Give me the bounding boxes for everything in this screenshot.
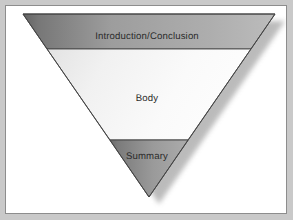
figure-container: Introduction/Conclusion Body Summary — [0, 0, 293, 220]
band-introduction-conclusion[interactable] — [23, 14, 275, 49]
diagram-canvas: Introduction/Conclusion Body Summary — [5, 5, 287, 214]
inverted-triangle-diagram — [6, 6, 287, 214]
